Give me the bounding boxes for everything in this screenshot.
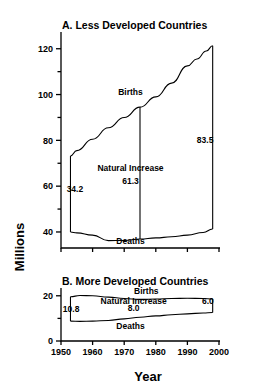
births-label: Births: [134, 286, 159, 296]
natural-increase-value: 8.0: [128, 303, 140, 313]
natural-increase-value: 61.3: [122, 176, 139, 186]
x-tick-label: 1990: [177, 347, 197, 357]
x-tick-label: 2000: [209, 347, 229, 357]
start-gap-value: 10.8: [63, 304, 80, 314]
x-tick-label: 1980: [146, 347, 166, 357]
x-tick-label: 1960: [83, 347, 103, 357]
figure-root: A. Less Developed Countries 406080100120…: [0, 0, 257, 389]
panel-a-tick-labels: 406080100120: [38, 44, 53, 237]
x-tick-label: 1970: [114, 347, 134, 357]
x-tick-label: 1950: [51, 347, 71, 357]
panel-b-annotations: BirthsDeathsNatural Increase8.010.86.0: [63, 286, 214, 331]
deaths-label: Deaths: [116, 321, 145, 331]
y-axis-title: Millions: [12, 223, 27, 271]
start-gap-value: 34.2: [67, 184, 84, 194]
y-tick-label: 0: [48, 336, 53, 346]
y-tick-label: 20: [43, 291, 53, 301]
births-label: Births: [118, 87, 143, 97]
panel-a-axes: [56, 32, 220, 252]
population-chart-figure: A. Less Developed Countries 406080100120…: [0, 0, 257, 389]
y-tick-label: 100: [38, 90, 53, 100]
deaths-label: Deaths: [116, 236, 145, 246]
end-gap-value: 83.5: [197, 135, 214, 145]
end-gap-value: 6.0: [202, 296, 214, 306]
panel-a-title: A. Less Developed Countries: [62, 19, 207, 31]
natural-increase-label: Natural Increase: [97, 163, 163, 173]
y-tick-label: 80: [43, 136, 53, 146]
y-tick-label: 60: [43, 181, 53, 191]
panel-a-series: [70, 46, 212, 241]
x-axis-title: Year: [134, 369, 161, 384]
panel-b: B. More Developed Countries 020195019601…: [43, 275, 229, 357]
y-tick-label: 40: [43, 227, 53, 237]
series-births: [70, 46, 212, 156]
panel-a-connectors: [70, 46, 212, 239]
panel-a: A. Less Developed Countries 406080100120…: [38, 19, 220, 252]
y-tick-label: 120: [38, 44, 53, 54]
